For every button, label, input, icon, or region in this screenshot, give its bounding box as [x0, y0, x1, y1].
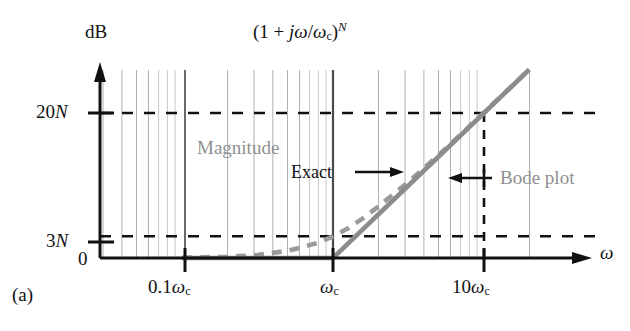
- y-tick-label-3N: 3N: [46, 231, 68, 250]
- exact-label: Exact: [291, 163, 332, 181]
- bode-plot-label: Bode plot: [500, 168, 574, 187]
- y-tick-20N-number: 20: [36, 101, 55, 122]
- y-tick-3N-var: N: [56, 230, 69, 251]
- title-open-paren: (1 +: [253, 21, 289, 42]
- x-tick-0.1wc-number: 0.1: [148, 276, 172, 297]
- y-tick-label-zero: 0: [78, 249, 88, 268]
- title-omega: ω: [294, 21, 307, 42]
- figure-title: (1 + jω/ωc)N: [253, 20, 347, 42]
- x-tick-label-0.1wc: 0.1ωc: [148, 277, 191, 297]
- x-axis-arrowhead: [572, 252, 592, 264]
- x-tick-0.1wc-omega: ω: [172, 276, 185, 297]
- bode-plot-arrow: [448, 169, 492, 187]
- x-tick-label-10wc: 10ωc: [452, 277, 490, 297]
- bode-magnitude-figure: dB ω 20N 3N 0 0.1ωc ωc 10ωc (1 + jω/ωc)N…: [0, 0, 630, 331]
- y-axis-title: dB: [85, 22, 107, 41]
- y-axis-arrowhead: [94, 62, 106, 82]
- x-tick-10wc-number: 10: [452, 276, 471, 297]
- x-tick-10wc-omega: ω: [471, 276, 484, 297]
- x-tick-10wc-subscript: c: [484, 284, 489, 298]
- x-axis-title: ω: [600, 243, 613, 262]
- y-tick-3N-number: 3: [46, 230, 56, 251]
- magnitude-label: Magnitude: [197, 138, 279, 157]
- title-exponent-N: N: [338, 19, 347, 34]
- x-tick-0.1wc-subscript: c: [185, 284, 190, 298]
- x-tick-wc-subscript: c: [333, 284, 338, 298]
- exact-arrow: [355, 167, 404, 177]
- y-tick-label-20N: 20N: [36, 102, 68, 121]
- y-tick-20N-var: N: [55, 101, 68, 122]
- x-tick-wc-omega: ω: [320, 276, 333, 297]
- panel-label: (a): [12, 285, 33, 304]
- x-tick-label-wc: ωc: [320, 277, 339, 297]
- title-omega-c: ω: [313, 21, 326, 42]
